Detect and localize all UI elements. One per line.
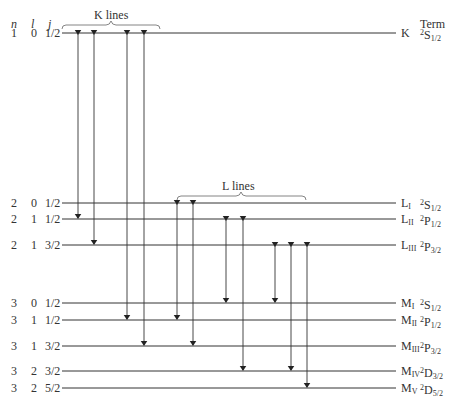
shell-label: MI [401, 297, 414, 313]
shell-label: MII [401, 314, 417, 330]
term-symbol: 2P1/2 [420, 213, 441, 231]
quantum-n: 3 [11, 297, 17, 309]
term-symbol: 2P1/2 [420, 314, 441, 332]
quantum-n: 3 [11, 365, 17, 377]
l-lines-brace [177, 192, 306, 200]
quantum-l: 2 [31, 382, 37, 394]
quantum-j: 1/2 [45, 297, 60, 309]
quantum-j: 3/2 [45, 239, 60, 251]
shell-label: LI [401, 197, 411, 213]
quantum-l: 1 [31, 314, 37, 326]
term-symbol: 2D3/2 [420, 365, 443, 383]
k-lines-brace [62, 21, 160, 29]
quantum-n: 3 [11, 382, 17, 394]
term-symbol: 2D5/2 [420, 382, 443, 400]
shell-label: LIII [401, 239, 416, 255]
term-symbol: 2S1/2 [420, 297, 441, 315]
quantum-n: 3 [11, 314, 17, 326]
quantum-l: 1 [31, 340, 37, 352]
quantum-j: 5/2 [45, 382, 60, 394]
quantum-n: 2 [11, 239, 17, 251]
shell-label: LII [401, 213, 414, 229]
l-lines-label: L lines [222, 180, 255, 192]
quantum-j: 3/2 [45, 340, 60, 352]
k-lines-label: K lines [94, 9, 128, 21]
quantum-j: 1/2 [45, 197, 60, 209]
quantum-j: 1/2 [45, 27, 60, 39]
shell-label: MV [401, 382, 417, 398]
quantum-j: 1/2 [45, 314, 60, 326]
term-symbol: 2S1/2 [420, 27, 441, 45]
quantum-l: 0 [31, 297, 37, 309]
energy-level-lines [62, 33, 396, 388]
quantum-l: 0 [31, 27, 37, 39]
quantum-n: 2 [11, 213, 17, 225]
shell-label: MIII [401, 340, 420, 356]
quantum-j: 1/2 [45, 213, 60, 225]
quantum-n: 1 [11, 27, 17, 39]
term-symbol: 2P3/2 [420, 340, 441, 358]
quantum-l: 2 [31, 365, 37, 377]
quantum-l: 1 [31, 239, 37, 251]
quantum-n: 2 [11, 197, 17, 209]
quantum-j: 3/2 [45, 365, 60, 377]
quantum-l: 1 [31, 213, 37, 225]
shell-label: MIV [401, 365, 420, 381]
quantum-l: 0 [31, 197, 37, 209]
term-symbol: 2P3/2 [420, 239, 441, 257]
transition-arrows [78, 34, 307, 387]
shell-label: K [401, 27, 410, 39]
quantum-n: 3 [11, 340, 17, 352]
energy-level-diagram [0, 0, 451, 401]
